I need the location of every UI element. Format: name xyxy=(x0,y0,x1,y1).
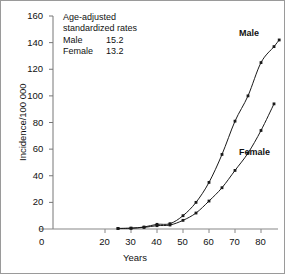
annotation-male-value: 15.2 xyxy=(106,35,124,47)
x-tick-label: 30 xyxy=(125,236,136,247)
series-line-female xyxy=(118,104,274,229)
data-point-marker xyxy=(195,201,198,204)
series-label-female: Female xyxy=(239,147,270,157)
data-point-marker xyxy=(182,214,185,217)
annotation-line-1: Age-adjusted xyxy=(63,12,116,24)
x-tick-label: 20 xyxy=(99,236,110,247)
x-tick-label: 40 xyxy=(151,236,162,247)
series-markers-male xyxy=(117,39,281,230)
series-label-male: Male xyxy=(239,28,259,38)
x-axis-ticks xyxy=(105,229,261,233)
data-point-marker xyxy=(117,227,120,230)
annotation-line-2: standardized rates xyxy=(63,23,137,35)
data-point-marker xyxy=(208,181,211,184)
data-point-marker xyxy=(260,61,263,64)
data-point-marker xyxy=(169,224,172,227)
data-point-marker xyxy=(278,39,281,42)
y-tick-label: 60 xyxy=(33,143,44,154)
series-markers-female xyxy=(117,102,276,229)
data-point-marker xyxy=(143,226,146,229)
x-tick-label: 0 xyxy=(39,236,44,247)
data-point-marker xyxy=(247,94,250,97)
data-point-marker xyxy=(182,219,185,222)
data-point-marker xyxy=(273,102,276,105)
data-point-marker xyxy=(221,186,224,189)
data-point-marker xyxy=(221,153,224,156)
data-point-marker xyxy=(208,200,211,203)
y-axis-title: Incidence/100 000 xyxy=(17,83,28,161)
data-point-marker xyxy=(234,120,237,123)
y-tick-label: 80 xyxy=(33,117,44,128)
data-point-marker xyxy=(234,169,237,172)
y-tick-label: 100 xyxy=(27,90,43,101)
x-tick-label: 70 xyxy=(229,236,240,247)
data-point-marker xyxy=(260,129,263,132)
series-line-male xyxy=(118,40,279,229)
x-axis-title: Years xyxy=(123,252,147,263)
annotation-female-value: 13.2 xyxy=(106,46,124,58)
data-point-marker xyxy=(195,212,198,215)
annotation-male-label: Male xyxy=(63,35,83,47)
y-tick-label: 140 xyxy=(27,37,43,48)
data-point-marker xyxy=(273,45,276,48)
x-tick-label: 80 xyxy=(255,236,266,247)
y-tick-label: 160 xyxy=(27,10,43,21)
data-point-marker xyxy=(156,224,159,227)
y-tick-label: 0 xyxy=(38,223,43,234)
y-tick-label: 40 xyxy=(33,170,44,181)
chart-figure: 020406080100120140160 020304050607080 In… xyxy=(0,0,285,274)
annotation-female-label: Female xyxy=(63,46,93,58)
y-tick-label: 20 xyxy=(33,196,44,207)
y-axis-ticks xyxy=(49,16,53,202)
y-tick-label: 120 xyxy=(27,63,43,74)
x-tick-label: 50 xyxy=(177,236,188,247)
data-point-marker xyxy=(130,227,133,230)
x-tick-label: 60 xyxy=(203,236,214,247)
